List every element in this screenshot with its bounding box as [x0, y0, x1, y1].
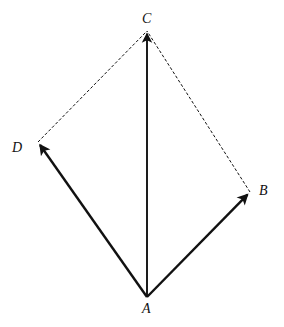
vertex-label-b: B	[259, 184, 268, 198]
vector-diagram-canvas	[0, 0, 284, 327]
vector-arrow-ad	[40, 145, 147, 297]
vector-arrow-ab	[147, 195, 247, 297]
vertex-label-c: C	[142, 12, 151, 26]
construction-line-dc	[38, 31, 147, 142]
vertex-label-d: D	[12, 141, 22, 155]
vector-diagram-figure: C D B A	[0, 0, 284, 327]
construction-line-bc	[147, 31, 250, 192]
vertex-label-a: A	[142, 302, 151, 316]
